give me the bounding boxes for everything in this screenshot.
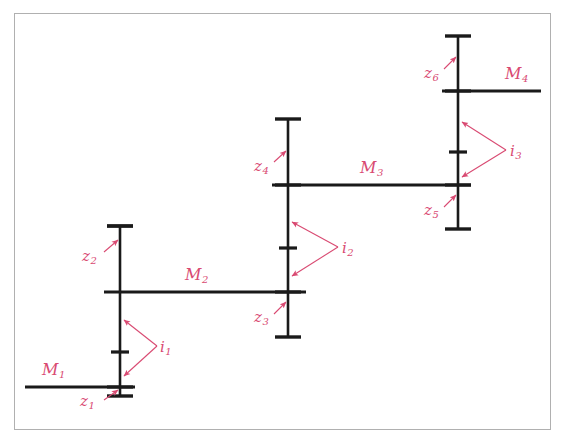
arrow-i2-upper	[292, 222, 338, 247]
arrow-i3-upper	[462, 122, 506, 150]
label-member-m4: M4	[505, 66, 528, 84]
label-gear-z4: z4	[254, 159, 269, 176]
arrow-i2-lower	[292, 247, 338, 276]
arrow-z3	[274, 302, 286, 314]
arrow-i3-lower	[462, 150, 506, 177]
arrow-i1-upper	[124, 320, 157, 346]
members-layer	[25, 91, 541, 387]
label-gear-z1: z1	[80, 394, 95, 411]
arrow-z6	[444, 57, 456, 69]
arrow-z5	[444, 195, 456, 207]
label-member-m2: M2	[185, 267, 208, 285]
figure-canvas: M1M2M3M4z1z2z3z4z5z6i1i2i3	[0, 0, 568, 445]
label-gear-z2: z2	[82, 249, 97, 266]
arrow-z2	[104, 240, 118, 252]
label-gear-z5: z5	[424, 203, 439, 220]
arrow-z4	[274, 151, 286, 162]
label-distance-i2: i2	[342, 241, 354, 258]
label-gear-z6: z6	[424, 66, 439, 83]
gear-train-diagram	[0, 0, 568, 445]
label-member-m1: M1	[42, 362, 65, 380]
label-member-m3: M3	[360, 160, 383, 178]
label-distance-i3: i3	[510, 144, 522, 161]
label-distance-i1: i1	[160, 340, 172, 357]
label-gear-z3: z3	[254, 310, 269, 327]
